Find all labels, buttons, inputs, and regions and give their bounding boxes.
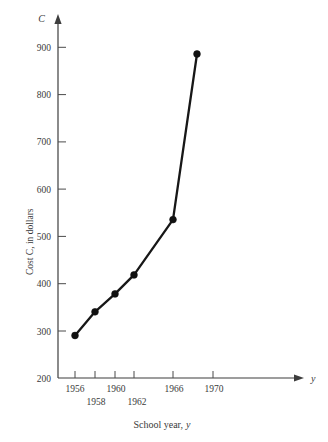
y-tick-label: 400: [37, 279, 52, 289]
y-tick-label: 900: [37, 43, 52, 53]
y-axis-title: Cost C, in dollars: [25, 208, 35, 275]
data-point-1962: [131, 272, 138, 279]
y-tick-label: 700: [37, 137, 52, 147]
y-axis-symbol-label: C: [38, 13, 45, 24]
x-axis-caption-symbol: y: [185, 419, 191, 430]
x-axis-arrowhead: [294, 374, 304, 381]
cost-series-line: [75, 54, 197, 336]
line-chart-figure: Cost C, in dollars C y 900 800 700 600 5…: [0, 0, 328, 442]
x-tick-group: [75, 371, 213, 378]
y-tick-group: [58, 47, 66, 331]
x-tick-label-1966: 1966: [165, 384, 184, 394]
x-axis-caption: School year,y: [133, 419, 191, 430]
data-point-1958: [92, 308, 99, 315]
y-axis-arrowhead: [54, 14, 61, 24]
y-tick-label: 800: [37, 90, 52, 100]
x-tick-label-1956: 1956: [66, 384, 85, 394]
cost-series-markers: [72, 51, 201, 339]
y-tick-label: 200: [37, 374, 52, 384]
data-point-1960: [112, 291, 119, 298]
x-tick-label-1958: 1958: [87, 397, 106, 407]
y-tick-label: 500: [37, 232, 52, 242]
x-axis-symbol-label: y: [310, 373, 316, 384]
y-tick-label: 600: [37, 185, 52, 195]
data-point-1956: [72, 332, 79, 339]
data-point-1970: [194, 51, 201, 58]
x-tick-label-1962: 1962: [128, 397, 147, 407]
x-tick-label-1960: 1960: [107, 384, 126, 394]
data-point-1966: [170, 216, 177, 223]
x-tick-label-1970: 1970: [205, 384, 224, 394]
x-axis-caption-text: School year,: [133, 419, 183, 430]
chart-svg: Cost C, in dollars C y 900 800 700 600 5…: [0, 0, 328, 442]
y-tick-label: 300: [37, 327, 52, 337]
